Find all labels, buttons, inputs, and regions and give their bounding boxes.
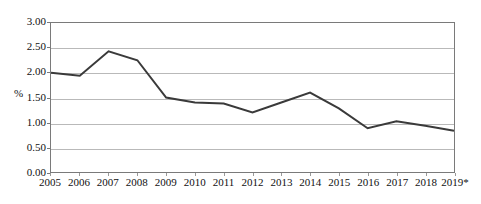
y-tick-mark [47,148,51,149]
x-tick-mark [195,173,196,176]
y-tick-label: 2.50 [2,41,46,52]
x-tick-label: 2017 [386,176,408,188]
x-tick-mark [339,173,340,176]
x-tick-label: 2012 [242,176,264,188]
y-axis-tick-labels: 3.002.502.001.501.000.500.00 [0,0,46,204]
x-tick-label: 2005 [39,176,61,188]
y-tick-mark [47,98,51,99]
x-tick-label: 2014 [299,176,321,188]
y-tick-mark [47,22,51,23]
x-axis-tick-labels: 2005200620072008200920102011201220132014… [0,176,481,192]
x-tick-mark [310,173,311,176]
x-tick-label: 2010 [184,176,206,188]
x-tick-mark [137,173,138,176]
x-tick-mark [79,173,80,176]
x-tick-label: 2013 [270,176,292,188]
series-line [51,23,454,172]
x-tick-mark [108,173,109,176]
y-tick-label: 2.00 [2,66,46,77]
y-tick-label: 1.50 [2,92,46,103]
x-tick-mark [281,173,282,176]
x-tick-label: 2016 [357,176,379,188]
x-tick-mark [50,173,51,176]
x-tick-label: 2009 [155,176,177,188]
y-tick-label: 1.00 [2,117,46,128]
x-tick-label: 2011 [213,176,235,188]
x-tick-label: 2008 [126,176,148,188]
line-chart: % 3.002.502.001.501.000.500.00 200520062… [0,0,481,204]
y-tick-label: 3.00 [2,16,46,27]
x-tick-mark [368,173,369,176]
x-tick-mark [426,173,427,176]
y-tick-mark [47,47,51,48]
x-tick-mark [397,173,398,176]
x-tick-label: 2015 [328,176,350,188]
x-tick-mark [253,173,254,176]
y-tick-label: 0.50 [2,142,46,153]
x-tick-label: 2019* [441,176,469,188]
x-tick-mark [166,173,167,176]
x-tick-label: 2018 [415,176,437,188]
y-tick-mark [47,123,51,124]
y-tick-mark [47,72,51,73]
plot-area [50,22,455,173]
x-tick-label: 2007 [97,176,119,188]
x-tick-mark [224,173,225,176]
x-tick-label: 2006 [68,176,90,188]
x-tick-mark [455,173,456,176]
